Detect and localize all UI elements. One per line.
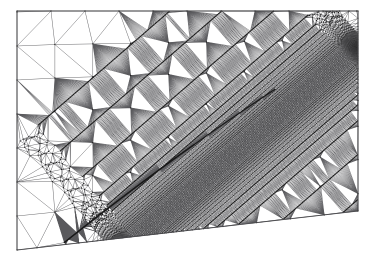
mesh-boundary-overlay [0, 0, 373, 265]
mesh-domain-boundary [17, 11, 358, 250]
figure-root: Adaptive triangular finite element mesh [0, 0, 373, 265]
